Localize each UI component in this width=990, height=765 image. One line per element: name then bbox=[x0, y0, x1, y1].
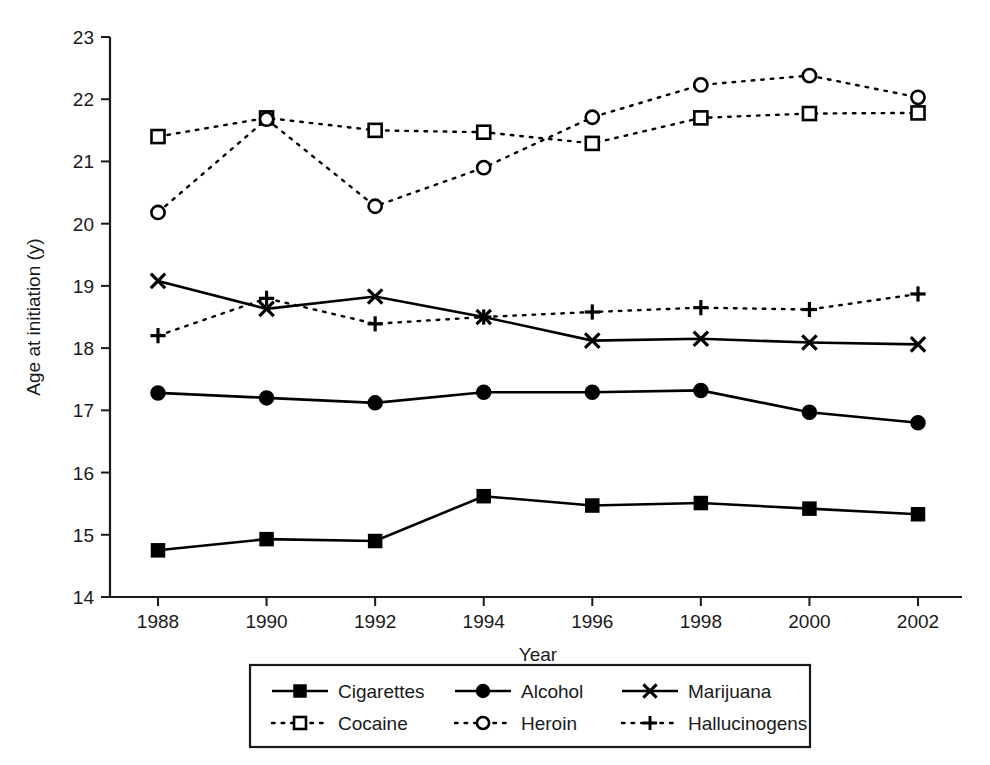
line-chart: 1415161718192021222319881990199219941996… bbox=[0, 0, 990, 765]
y-tick-label: 20 bbox=[73, 214, 94, 235]
y-tick-label: 22 bbox=[73, 89, 94, 110]
legend-label: Alcohol bbox=[521, 681, 583, 702]
legend: CigarettesAlcoholMarijuanaCocaineHeroinH… bbox=[250, 665, 810, 747]
series-line bbox=[158, 76, 918, 213]
x-tick-label: 1998 bbox=[680, 611, 722, 632]
marker-open-circle bbox=[911, 91, 924, 104]
marker-filled-circle bbox=[368, 396, 382, 410]
marker-filled-circle bbox=[802, 405, 816, 419]
marker-filled-circle bbox=[260, 391, 274, 405]
legend-label: Cigarettes bbox=[338, 681, 425, 702]
series-heroin bbox=[151, 69, 924, 219]
marker-filled-square bbox=[369, 535, 382, 548]
marker-filled-square bbox=[803, 502, 816, 515]
marker-filled-square bbox=[694, 497, 707, 510]
y-tick-label: 21 bbox=[73, 151, 94, 172]
y-tick-label: 14 bbox=[73, 587, 95, 608]
marker-filled-square bbox=[152, 544, 165, 557]
marker-filled-square bbox=[586, 499, 599, 512]
marker-plus bbox=[150, 328, 165, 343]
marker-open-circle bbox=[586, 111, 599, 124]
x-tick-label: 2000 bbox=[788, 611, 830, 632]
marker-open-square bbox=[152, 130, 165, 143]
marker-open-square bbox=[369, 124, 382, 137]
y-tick-label: 17 bbox=[73, 400, 94, 421]
y-tick-label: 18 bbox=[73, 338, 94, 359]
marker-plus bbox=[693, 300, 708, 315]
series-cigarettes bbox=[152, 490, 925, 557]
y-tick-label: 15 bbox=[73, 525, 94, 546]
marker-open-circle bbox=[151, 206, 164, 219]
marker-filled-square bbox=[260, 533, 273, 546]
marker-open-square bbox=[912, 106, 925, 119]
x-tick-label: 1996 bbox=[571, 611, 613, 632]
legend-label: Cocaine bbox=[338, 713, 408, 734]
marker-open-circle bbox=[477, 717, 489, 729]
marker-open-square bbox=[803, 107, 816, 120]
legend-label: Marijuana bbox=[688, 681, 772, 702]
marker-open-square bbox=[477, 126, 490, 139]
marker-open-circle bbox=[260, 113, 273, 126]
y-tick-label: 16 bbox=[73, 463, 94, 484]
marker-filled-square bbox=[477, 490, 490, 503]
marker-plus bbox=[910, 286, 925, 301]
series-alcohol bbox=[151, 383, 925, 429]
x-tick-label: 1994 bbox=[463, 611, 506, 632]
marker-plus bbox=[802, 302, 817, 317]
legend-label: Hallucinogens bbox=[688, 713, 807, 734]
marker-filled-square bbox=[294, 685, 306, 697]
marker-open-circle bbox=[477, 161, 490, 174]
marker-filled-circle bbox=[477, 385, 491, 399]
marker-open-square bbox=[294, 717, 306, 729]
x-axis-title: Year bbox=[519, 644, 558, 665]
marker-filled-circle bbox=[477, 685, 490, 698]
marker-plus bbox=[585, 304, 600, 319]
y-tick-label: 19 bbox=[73, 276, 94, 297]
marker-open-circle bbox=[694, 78, 707, 91]
figure-container: 1415161718192021222319881990199219941996… bbox=[0, 0, 990, 765]
data-series-group bbox=[150, 69, 925, 557]
marker-filled-circle bbox=[151, 386, 165, 400]
series-hallucinogens bbox=[150, 286, 925, 343]
x-tick-label: 1988 bbox=[137, 611, 179, 632]
y-tick-label: 23 bbox=[73, 27, 94, 48]
y-axis-title: Age at initiation (y) bbox=[23, 238, 44, 395]
marker-filled-circle bbox=[694, 383, 708, 397]
axis-labels: 1415161718192021222319881990199219941996… bbox=[23, 27, 939, 665]
marker-filled-circle bbox=[585, 385, 599, 399]
marker-open-circle bbox=[369, 200, 382, 213]
marker-filled-circle bbox=[911, 416, 925, 430]
x-tick-label: 1992 bbox=[354, 611, 396, 632]
marker-open-square bbox=[586, 137, 599, 150]
axes bbox=[101, 37, 962, 606]
x-tick-label: 2002 bbox=[897, 611, 939, 632]
x-tick-label: 1990 bbox=[245, 611, 287, 632]
marker-plus bbox=[368, 316, 383, 331]
legend-box bbox=[250, 665, 810, 747]
legend-label: Heroin bbox=[521, 713, 577, 734]
marker-open-circle bbox=[803, 69, 816, 82]
marker-open-square bbox=[694, 111, 707, 124]
marker-filled-square bbox=[912, 508, 925, 521]
